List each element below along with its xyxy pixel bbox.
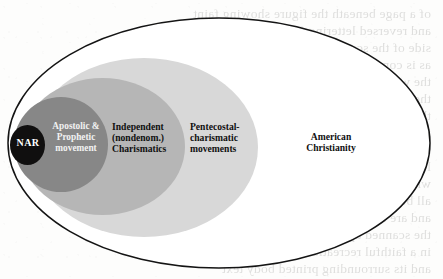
- figure-root: of a page beneath the figure showing fai…: [0, 0, 443, 279]
- euler-diagram: [0, 0, 443, 279]
- ellipse-nar: [10, 125, 45, 165]
